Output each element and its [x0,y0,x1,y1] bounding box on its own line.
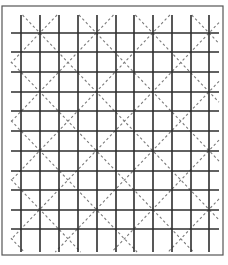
ascending-diagonal [55,81,219,252]
descending-diagonal [11,62,193,252]
ascending-diagonal [11,15,113,122]
grid-diagram [0,0,228,265]
ascending-diagonal [112,140,219,252]
ascending-diagonal [11,15,170,181]
ascending-diagonal [11,15,57,63]
descending-diagonal [23,15,219,220]
descending-diagonal [135,15,219,102]
descending-diagonal [192,15,219,43]
diagonal-dashed-lines [11,15,219,252]
ascending-diagonal [168,199,219,252]
descending-diagonal [11,238,24,252]
grid-lines [11,15,219,252]
